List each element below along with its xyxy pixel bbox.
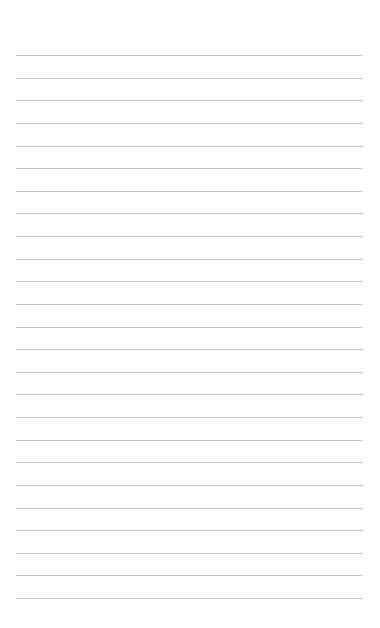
ruled-line xyxy=(16,236,363,237)
ruled-line xyxy=(16,440,363,441)
ruled-line xyxy=(16,575,363,576)
ruled-line xyxy=(16,349,363,350)
ruled-line xyxy=(16,78,363,79)
ruled-line xyxy=(16,100,363,101)
ruled-line xyxy=(16,553,363,554)
ruled-line xyxy=(16,598,363,599)
ruled-line xyxy=(16,146,363,147)
ruled-line xyxy=(16,372,363,373)
ruled-line xyxy=(16,508,363,509)
ruled-line xyxy=(16,191,363,192)
lined-paper-page xyxy=(0,0,380,628)
ruled-line xyxy=(16,281,363,282)
ruled-line xyxy=(16,327,363,328)
ruled-line xyxy=(16,462,363,463)
ruled-line xyxy=(16,168,363,169)
ruled-line xyxy=(16,394,363,395)
ruled-line xyxy=(16,55,363,56)
ruled-line xyxy=(16,213,363,214)
ruled-line xyxy=(16,123,363,124)
ruled-line xyxy=(16,417,363,418)
ruled-line xyxy=(16,259,363,260)
ruled-line xyxy=(16,485,363,486)
ruled-line xyxy=(16,304,363,305)
ruled-line xyxy=(16,530,363,531)
